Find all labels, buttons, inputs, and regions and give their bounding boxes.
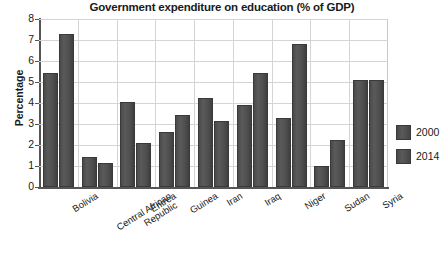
y-tick-mark-7 <box>35 40 39 41</box>
bar <box>175 115 190 187</box>
y-tick-mark-5 <box>35 82 39 83</box>
bar-cluster <box>276 19 307 187</box>
bar-cluster <box>314 19 345 187</box>
bar <box>98 163 113 187</box>
bar <box>253 73 268 187</box>
legend-swatch-2014 <box>396 149 411 164</box>
x-tick-label: Iran <box>224 190 244 208</box>
bar-cluster <box>237 19 268 187</box>
bar <box>120 102 135 187</box>
y-tick-mark-8 <box>35 19 39 20</box>
gridline-v <box>233 19 234 187</box>
gridline-v <box>310 19 311 187</box>
bar <box>314 166 329 187</box>
bar-cluster <box>120 19 151 187</box>
bar <box>136 143 151 187</box>
y-tick-label-6: 6 <box>8 55 34 66</box>
y-tick-label-1: 1 <box>8 160 34 171</box>
bar <box>159 132 174 187</box>
x-tick-label: Sudan <box>342 190 371 214</box>
y-tick-label-5: 5 <box>8 76 34 87</box>
y-tick-label-0: 0 <box>8 181 34 192</box>
legend-swatch-2000 <box>396 125 411 140</box>
y-tick-mark-6 <box>35 61 39 62</box>
legend-label-2014: 2014 <box>416 150 439 162</box>
bar <box>276 118 291 187</box>
gridline-v <box>349 19 350 187</box>
x-tick-label: Syria <box>380 190 404 211</box>
gridline-v <box>117 19 118 187</box>
bar <box>43 73 58 187</box>
gridline-v <box>194 19 195 187</box>
chart-title: Government expenditure on education (% o… <box>0 1 444 13</box>
bar-cluster <box>82 19 113 187</box>
y-tick-mark-4 <box>35 103 39 104</box>
page-bleed-text <box>0 248 444 255</box>
gridline-v <box>272 19 273 187</box>
x-tick-label: Niger <box>302 190 327 211</box>
bar <box>330 140 345 187</box>
x-axis-line <box>38 187 389 189</box>
bar-cluster <box>43 19 74 187</box>
y-tick-label-2: 2 <box>8 139 34 150</box>
y-tick-label-4: 4 <box>8 97 34 108</box>
bar-cluster <box>198 19 229 187</box>
y-tick-mark-2 <box>35 145 39 146</box>
bar <box>353 80 368 187</box>
y-tick-label-8: 8 <box>8 13 34 24</box>
y-tick-label-3: 3 <box>8 118 34 129</box>
bar-cluster <box>159 19 190 187</box>
legend: 2000 2014 <box>396 120 439 168</box>
bar-cluster <box>353 19 384 187</box>
bar <box>237 105 252 187</box>
y-tick-label-7: 7 <box>8 34 34 45</box>
legend-item-2000: 2000 <box>396 120 439 144</box>
legend-label-2000: 2000 <box>416 126 439 138</box>
bar <box>292 44 307 187</box>
y-tick-mark-0 <box>35 187 39 188</box>
legend-item-2014: 2014 <box>396 144 439 168</box>
x-tick-label: Iraq <box>263 190 283 208</box>
bar <box>59 34 74 187</box>
bar <box>198 98 213 187</box>
x-tick-label: Bolivia <box>71 190 101 214</box>
bar <box>369 80 384 187</box>
bar-chart: Government expenditure on education (% o… <box>0 0 444 255</box>
bar <box>214 121 229 187</box>
y-tick-mark-1 <box>35 166 39 167</box>
x-tick-label: Guinea <box>187 190 219 216</box>
bar <box>82 157 97 187</box>
gridline-v <box>78 19 79 187</box>
plot-area <box>39 19 388 187</box>
y-tick-mark-3 <box>35 124 39 125</box>
gridline-v <box>155 19 156 187</box>
